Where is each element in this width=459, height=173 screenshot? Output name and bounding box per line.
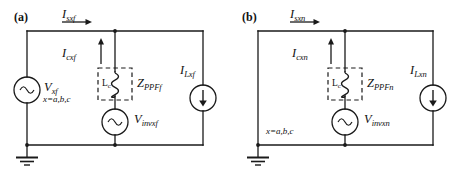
inductor-a — [112, 71, 119, 97]
inductor-sub-b: c — [338, 82, 341, 90]
impedance-base-b: Z — [367, 76, 374, 90]
load-current-sub-b: Lxn — [414, 69, 426, 79]
ac-inverter-source-a — [102, 109, 128, 135]
impedance-label-a: ZPPFf — [137, 77, 162, 90]
branch-current-label-b: Icxn — [292, 47, 308, 60]
branch-current-sub-b: cxn — [296, 52, 308, 62]
source-voltage-base-a: V — [44, 80, 52, 94]
circuit-panel-a: (a) Isxf Icxf Vxf x=a,b,c Lc ZPPFf Vinvx… — [0, 0, 229, 173]
inductor-label-b: Lc — [332, 79, 341, 89]
inverter-voltage-base-a: V — [134, 112, 142, 126]
inverter-voltage-base-b: V — [364, 112, 372, 126]
source-current-sub-a: sxf — [66, 13, 75, 23]
ground-symbol-b — [247, 145, 269, 165]
current-source-a — [190, 85, 216, 111]
phase-note-b: x=a,b,c — [266, 127, 294, 136]
impedance-sub-a: PPFf — [144, 82, 162, 92]
branch-current-arrow-b — [328, 38, 334, 64]
inverter-voltage-sub-a: invxf — [142, 118, 158, 128]
branch-current-label-a: Icxf — [62, 47, 76, 60]
ac-voltage-source-a — [14, 77, 40, 103]
inductor-b — [342, 71, 349, 97]
node-bottom-mid-b — [343, 143, 347, 147]
inverter-voltage-label-b: Vinvxn — [364, 113, 390, 126]
node-top-mid-b — [343, 29, 347, 33]
impedance-sub-b: PPFn — [374, 82, 393, 92]
branch-current-sub-a: cxf — [66, 52, 76, 62]
ground-symbol-a — [16, 145, 38, 165]
node-bottom-mid-a — [113, 143, 117, 147]
current-source-b — [420, 85, 446, 111]
inductor-sub-a: c — [108, 82, 111, 90]
node-top-mid-a — [113, 29, 117, 33]
source-current-label-b: Isxn — [290, 8, 305, 21]
source-voltage-label-a: Vxf — [44, 81, 58, 94]
circuit-schematic-a — [0, 0, 229, 173]
inductor-base-a: L — [102, 78, 108, 88]
circuit-panel-b: (b) Isxn Icxn Lc ZPPFn Vinvxn ILxn x=a,b… — [230, 0, 459, 173]
inductor-base-b: L — [332, 78, 338, 88]
load-current-label-a: ILxf — [180, 64, 195, 77]
circuit-schematic-b — [230, 0, 459, 173]
panel-tag-a: (a) — [14, 11, 28, 23]
source-current-label-a: Isxf — [62, 8, 75, 21]
load-current-label-b: ILxn — [410, 64, 427, 77]
branch-current-arrow-a — [98, 38, 104, 64]
inverter-voltage-sub-b: invxn — [372, 118, 390, 128]
source-current-sub-b: sxn — [294, 13, 305, 23]
figure-root: (a) Isxf Icxf Vxf x=a,b,c Lc ZPPFf Vinvx… — [0, 0, 459, 173]
inductor-label-a: Lc — [102, 79, 111, 89]
phase-note-a: x=a,b,c — [43, 95, 71, 104]
ac-inverter-source-b — [332, 109, 358, 135]
impedance-label-b: ZPPFn — [367, 77, 393, 90]
load-current-sub-a: Lxf — [184, 69, 195, 79]
impedance-base-a: Z — [137, 76, 144, 90]
inverter-voltage-label-a: Vinvxf — [134, 113, 158, 126]
panel-tag-b: (b) — [242, 11, 257, 23]
